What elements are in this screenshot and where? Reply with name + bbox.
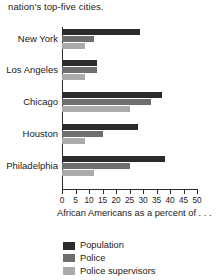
chart-subtitle: nation's top-five cities. bbox=[8, 1, 104, 12]
x-tick-10 bbox=[89, 189, 90, 194]
legend-swatch-police-supervisors bbox=[63, 267, 75, 275]
legend-label-police: Police bbox=[80, 253, 105, 264]
bar-los-angeles-police-supervisors bbox=[62, 74, 85, 80]
bar-group-new-york bbox=[62, 29, 197, 51]
bar-group-philadelphia bbox=[62, 156, 197, 178]
bar-new-york-population bbox=[62, 29, 140, 35]
y-axis-label-los-angeles: Los Angeles bbox=[2, 64, 58, 75]
legend-swatch-police bbox=[63, 254, 75, 262]
x-tick-15 bbox=[103, 189, 104, 194]
x-tick-label-45: 45 bbox=[179, 195, 188, 205]
bar-houston-police-supervisors bbox=[62, 138, 85, 144]
x-tick-label-15: 15 bbox=[98, 195, 107, 205]
x-tick-25 bbox=[130, 189, 131, 194]
x-axis-label: African Americans as a percent of . . . bbox=[57, 208, 212, 218]
x-tick-0 bbox=[62, 189, 63, 194]
x-tick-label-10: 10 bbox=[84, 195, 93, 205]
y-axis-label-chicago: Chicago bbox=[2, 96, 58, 107]
x-tick-label-30: 30 bbox=[138, 195, 147, 205]
bar-chicago-population bbox=[62, 92, 162, 98]
chart-figure: nation's top-five cities. New YorkLos An… bbox=[0, 0, 217, 280]
chart-legend: PopulationPolicePolice supervisors bbox=[63, 240, 213, 278]
x-tick-label-20: 20 bbox=[111, 195, 120, 205]
x-tick-35 bbox=[157, 189, 158, 194]
bar-philadelphia-police-supervisors bbox=[62, 170, 94, 176]
bar-los-angeles-police bbox=[62, 67, 97, 73]
legend-item-police: Police bbox=[63, 253, 213, 265]
y-axis-labels: New YorkLos AngelesChicagoHoustonPhilade… bbox=[0, 27, 58, 189]
y-axis-label-new-york: New York bbox=[2, 33, 58, 44]
bar-chicago-police bbox=[62, 99, 151, 105]
bar-group-houston bbox=[62, 124, 197, 146]
x-tick-label-50: 50 bbox=[192, 195, 201, 205]
bar-chicago-police-supervisors bbox=[62, 106, 130, 112]
x-tick-30 bbox=[143, 189, 144, 194]
y-axis-label-houston: Houston bbox=[2, 128, 58, 139]
x-tick-45 bbox=[184, 189, 185, 194]
bar-new-york-police bbox=[62, 36, 94, 42]
legend-item-population: Population bbox=[63, 240, 213, 252]
bar-philadelphia-police bbox=[62, 163, 130, 169]
x-tick-label-40: 40 bbox=[165, 195, 174, 205]
x-tick-label-25: 25 bbox=[125, 195, 134, 205]
legend-label-police-supervisors: Police supervisors bbox=[80, 266, 155, 277]
x-tick-20 bbox=[116, 189, 117, 194]
bar-group-chicago bbox=[62, 92, 197, 114]
x-tick-50 bbox=[197, 189, 198, 194]
y-axis-label-philadelphia: Philadelphia bbox=[2, 160, 58, 171]
plot-area bbox=[62, 27, 197, 189]
x-tick-label-0: 0 bbox=[60, 195, 65, 205]
bar-group-los-angeles bbox=[62, 60, 197, 82]
x-tick-5 bbox=[76, 189, 77, 194]
bar-houston-police bbox=[62, 131, 103, 137]
bar-los-angeles-population bbox=[62, 60, 97, 66]
x-tick-label-5: 5 bbox=[73, 195, 78, 205]
bar-new-york-police-supervisors bbox=[62, 43, 85, 49]
x-tick-40 bbox=[170, 189, 171, 194]
legend-swatch-population bbox=[63, 242, 75, 250]
legend-label-population: Population bbox=[80, 240, 124, 251]
legend-item-police-supervisors: Police supervisors bbox=[63, 265, 213, 277]
bar-houston-population bbox=[62, 124, 138, 130]
bar-philadelphia-population bbox=[62, 156, 165, 162]
x-tick-label-35: 35 bbox=[152, 195, 161, 205]
